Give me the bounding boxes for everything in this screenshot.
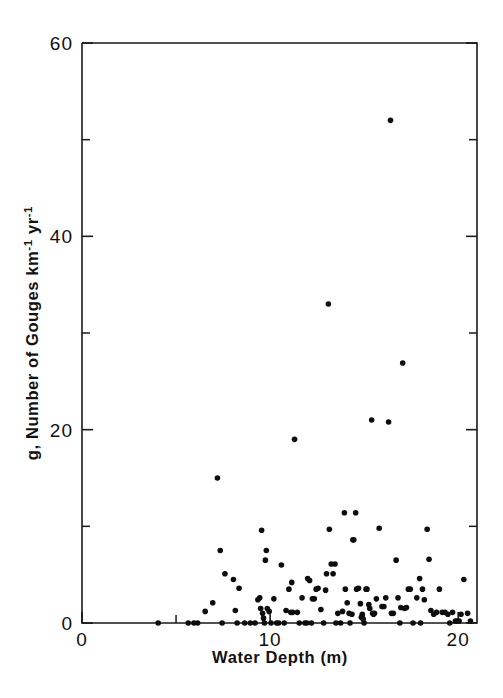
axis-tick-labels: 010200204060 xyxy=(50,33,470,650)
scatter-point xyxy=(271,596,277,602)
scatter-point xyxy=(391,611,397,617)
scatter-point xyxy=(281,620,287,626)
x-tick-label: 10 xyxy=(259,629,282,650)
scatter-point xyxy=(286,586,292,592)
scatter-point xyxy=(358,601,364,607)
scatter-point xyxy=(326,301,332,307)
scatter-point xyxy=(242,620,248,626)
scatter-point xyxy=(340,609,346,615)
scatter-point xyxy=(349,612,355,618)
scatter-point xyxy=(312,596,318,602)
scatter-point xyxy=(372,611,378,617)
scatter-point xyxy=(395,595,401,601)
scatter-point xyxy=(217,548,223,554)
y-tick-label: 20 xyxy=(50,420,73,441)
scatter-point xyxy=(260,611,266,617)
scatter-point xyxy=(299,595,305,601)
y-axis-title: g, Number of Gouges km-1 yr-1 xyxy=(22,206,41,460)
scatter-point xyxy=(347,620,353,626)
scatter-point xyxy=(307,578,313,584)
scatter-point xyxy=(315,585,321,591)
scatter-point xyxy=(437,586,443,592)
scatter-point xyxy=(342,510,348,516)
x-tick-label: 20 xyxy=(447,629,470,650)
y-axis-title-exponent-2: -1 xyxy=(22,206,34,217)
y-axis-title-exponent-1: -1 xyxy=(22,239,34,250)
scatter-point xyxy=(418,620,424,626)
scatter-point xyxy=(397,620,403,626)
scatter-point xyxy=(215,475,221,481)
scatter-point xyxy=(318,607,324,613)
y-tick-label: 40 xyxy=(50,226,73,247)
scatter-point xyxy=(236,585,242,591)
scatter-point xyxy=(447,620,453,626)
scatter-point xyxy=(333,620,339,626)
scatter-point xyxy=(219,620,225,626)
y-tick-label: 60 xyxy=(50,33,73,54)
scatter-point xyxy=(410,620,416,626)
scatter-point xyxy=(458,612,464,618)
y-tick-label: 0 xyxy=(61,613,73,634)
plot-canvas: 010200204060 Water Depth (m) g, Number o… xyxy=(0,0,503,698)
scatter-point xyxy=(268,620,274,626)
scatter-point xyxy=(343,586,349,592)
scatter-point xyxy=(279,562,285,568)
scatter-point xyxy=(289,580,295,586)
scatter-point xyxy=(262,620,268,626)
scatter-point xyxy=(327,526,333,532)
scatter-point xyxy=(304,620,310,626)
scatter-point xyxy=(292,437,298,443)
scatter-point xyxy=(407,586,413,592)
scatter-point xyxy=(263,557,269,563)
scatter-point xyxy=(353,510,359,516)
scatter-points xyxy=(155,118,473,626)
scatter-point xyxy=(259,527,265,533)
scatter-point xyxy=(222,571,228,577)
scatter-point xyxy=(264,548,270,554)
scatter-point xyxy=(210,600,216,606)
scatter-point xyxy=(367,606,373,612)
scatter-point xyxy=(461,577,467,583)
scatter-point xyxy=(155,620,161,626)
scatter-plot-figure: 010200204060 Water Depth (m) g, Number o… xyxy=(0,0,503,698)
x-tick-label: 0 xyxy=(76,629,88,650)
scatter-point xyxy=(426,556,432,562)
scatter-point xyxy=(465,611,471,617)
scatter-point xyxy=(359,612,365,618)
scatter-point xyxy=(276,620,282,626)
scatter-point xyxy=(400,360,406,366)
scatter-point xyxy=(261,615,267,621)
scatter-point xyxy=(202,609,208,615)
scatter-point xyxy=(388,118,394,124)
scatter-point xyxy=(332,561,338,567)
scatter-point xyxy=(424,526,430,532)
scatter-point xyxy=(420,586,426,592)
scatter-point xyxy=(356,585,362,591)
scatter-point xyxy=(386,419,392,425)
scatter-point xyxy=(404,605,410,611)
scatter-point xyxy=(456,618,462,624)
scatter-point xyxy=(234,620,240,626)
scatter-point xyxy=(434,610,440,616)
y-axis-title-middle: yr xyxy=(23,217,41,239)
scatter-point xyxy=(321,620,327,626)
scatter-point xyxy=(361,620,367,626)
scatter-point xyxy=(468,618,474,624)
scatter-point xyxy=(417,576,423,582)
scatter-point xyxy=(344,600,350,606)
scatter-point xyxy=(381,604,387,610)
scatter-point xyxy=(233,608,239,614)
y-axis-title-prefix: g, Number of Gouges km xyxy=(23,251,41,460)
scatter-point xyxy=(185,620,191,626)
y-axis-title-text: g, Number of Gouges km-1 yr-1 xyxy=(22,206,41,460)
scatter-point xyxy=(383,595,389,601)
x-axis-title: Water Depth (m) xyxy=(212,648,348,666)
scatter-point xyxy=(414,595,420,601)
scatter-point xyxy=(422,597,428,603)
scatter-point xyxy=(266,609,272,615)
scatter-point xyxy=(323,587,329,593)
scatter-point xyxy=(374,596,380,602)
axes-border xyxy=(82,43,477,623)
scatter-point xyxy=(324,571,330,577)
axis-ticks xyxy=(82,43,477,623)
